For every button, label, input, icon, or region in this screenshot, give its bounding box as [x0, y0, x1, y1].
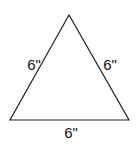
left-side-label: 6" — [27, 56, 41, 73]
triangle-diagram: 6" 6" 6" — [0, 0, 137, 148]
right-side-label: 6" — [103, 56, 117, 73]
bottom-side-label: 6" — [64, 124, 78, 141]
